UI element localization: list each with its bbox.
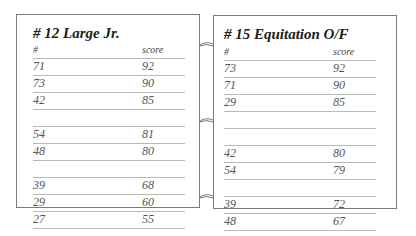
binding-ring-middle (200, 117, 213, 123)
rider-number: 48 (224, 214, 236, 229)
table-row: 4867 (224, 213, 376, 231)
rider-score: 68 (142, 178, 154, 193)
binding-ring-top (200, 41, 213, 47)
rider-score: 85 (142, 93, 154, 108)
class-12-panel: # 12 Large Jr. # score 7192 7390 4285 54… (16, 14, 200, 208)
table-row: 3972 (224, 196, 376, 213)
column-header: # score (33, 44, 185, 58)
score-list: 7392 7190 2985 4280 5479 3972 4867 (224, 60, 376, 231)
table-row: 4285 (33, 92, 185, 109)
rider-score: 80 (333, 146, 345, 161)
column-number-header: # (224, 46, 229, 57)
column-number-header: # (33, 44, 38, 55)
rider-score: 90 (333, 78, 345, 93)
rider-number: 73 (224, 61, 236, 76)
table-row: 4280 (224, 145, 376, 162)
rider-score: 67 (333, 214, 345, 229)
table-row: 2755 (33, 211, 185, 229)
rider-number: 71 (224, 78, 236, 93)
rider-number: 54 (33, 127, 45, 142)
table-row: 2960 (33, 194, 185, 211)
rider-score: 85 (333, 95, 345, 110)
table-row: 5479 (224, 162, 376, 179)
rider-score: 92 (333, 61, 345, 76)
table-row: 3968 (33, 177, 185, 194)
rider-score: 79 (333, 163, 345, 178)
table-row (224, 111, 376, 128)
rider-score: 80 (142, 144, 154, 159)
panel-title: # 12 Large Jr. (33, 25, 120, 42)
rider-number: 48 (33, 144, 45, 159)
table-row: 7190 (224, 77, 376, 94)
rider-number: 29 (224, 95, 236, 110)
table-row (33, 160, 185, 177)
rider-number: 54 (224, 163, 236, 178)
rider-number: 39 (33, 178, 45, 193)
table-row: 4880 (33, 143, 185, 160)
panel-title: # 15 Equitation O/F (224, 26, 349, 43)
table-row: 5481 (33, 126, 185, 143)
rider-score: 81 (142, 127, 154, 142)
column-header: # score (224, 46, 376, 60)
binding-ring-bottom (200, 193, 213, 199)
rider-score: 60 (142, 195, 154, 210)
rider-number: 27 (33, 212, 45, 227)
rider-number: 29 (33, 195, 45, 210)
rider-number: 71 (33, 59, 45, 74)
rider-number: 39 (224, 197, 236, 212)
table-row (224, 179, 376, 196)
rider-score: 72 (333, 197, 345, 212)
rider-number: 73 (33, 76, 45, 91)
table-row: 7192 (33, 58, 185, 75)
rider-number: 42 (224, 146, 236, 161)
table-row (224, 128, 376, 145)
score-list: 7192 7390 4285 5481 4880 3968 2960 2755 (33, 58, 185, 229)
rider-number: 42 (33, 93, 45, 108)
table-row (33, 109, 185, 126)
class-15-panel: # 15 Equitation O/F # score 7392 7190 29… (213, 15, 397, 209)
rider-score: 92 (142, 59, 154, 74)
column-score-header: score (142, 44, 163, 55)
table-row: 7390 (33, 75, 185, 92)
rider-score: 90 (142, 76, 154, 91)
table-row: 2985 (224, 94, 376, 111)
rider-score: 55 (142, 212, 154, 227)
column-score-header: score (333, 46, 354, 57)
table-row: 7392 (224, 60, 376, 77)
